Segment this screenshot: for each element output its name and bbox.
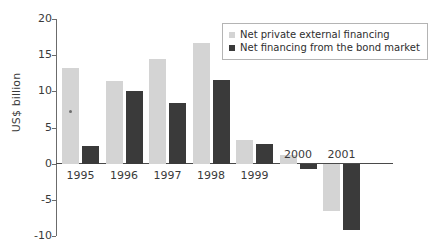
x-axis-tick-label: 1996: [101, 170, 147, 181]
x-axis-tick-label: 1999: [232, 170, 278, 181]
legend-item: Net private external financing: [229, 28, 420, 41]
legend-item: Net financing from the bond market: [229, 41, 420, 54]
y-axis-tick-label: 10: [12, 85, 52, 96]
x-axis-tick-label: 2001: [319, 149, 365, 160]
bar: [106, 81, 123, 163]
chart-legend: Net private external financingNet financ…: [222, 23, 428, 60]
bar: [126, 91, 143, 163]
y-axis-tick-mark: [52, 236, 56, 237]
bar: [236, 140, 253, 164]
bar: [256, 144, 273, 164]
bar: [193, 43, 210, 164]
y-axis-tick-label: 0: [12, 158, 52, 169]
bar: [300, 164, 317, 170]
legend-swatch-icon: [229, 45, 235, 51]
y-axis-tick-label: 20: [12, 13, 52, 24]
legend-item-label: Net financing from the bond market: [240, 43, 420, 53]
y-axis-tick-labels: 20151050-5-10: [8, 19, 52, 236]
y-axis-tick-label: 5: [12, 122, 52, 133]
y-axis-tick-label: -5: [12, 194, 52, 205]
y-axis-tick-label: -10: [12, 230, 52, 241]
bar: [213, 80, 230, 163]
legend-item-label: Net private external financing: [240, 30, 390, 40]
bar: [169, 103, 186, 164]
x-axis-tick-label: 1997: [145, 170, 191, 181]
bar: [323, 164, 340, 211]
legend-swatch-icon: [229, 32, 235, 38]
x-axis-tick-label: 2000: [275, 149, 321, 160]
bar: [62, 68, 79, 163]
x-axis-tick-label: 1995: [58, 170, 104, 181]
bar: [82, 146, 99, 163]
bar: [149, 59, 166, 164]
bar: [343, 164, 360, 231]
y-axis-tick-label: 15: [12, 49, 52, 60]
x-axis-tick-label: 1998: [188, 170, 234, 181]
